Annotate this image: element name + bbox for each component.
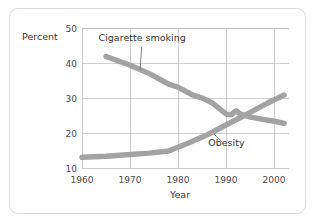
series-line-obesity [82, 95, 284, 157]
x-tick-label-1980: 1980 [167, 175, 190, 185]
y-tick-label-30: 30 [66, 94, 78, 104]
series-label-obesity: Obesity [208, 137, 245, 148]
y-tick-label-10: 10 [66, 164, 78, 174]
y-tick-label-40: 40 [66, 59, 78, 69]
x-axis-tick-labels: 1960 1970 1980 1990 2000 [71, 175, 286, 185]
line-chart: 50 40 30 20 10 1960 1970 1980 1990 2000 … [0, 0, 317, 224]
series-line-cigarette-smoking [106, 57, 284, 124]
annotation-leaders [140, 47, 222, 143]
series-group [82, 57, 284, 158]
x-axis-title: Year [169, 189, 190, 200]
x-tick-label-1960: 1960 [71, 175, 94, 185]
series-label-cigarette-smoking: Cigarette smoking [99, 32, 186, 43]
x-tick-label-1970: 1970 [119, 175, 142, 185]
leader-line-cigarette-smoking [140, 47, 142, 70]
y-axis-title: Percent [22, 31, 58, 42]
y-tick-label-50: 50 [66, 24, 78, 34]
horizontal-gridlines [82, 29, 289, 169]
x-tick-label-2000: 2000 [263, 175, 286, 185]
x-tick-label-1990: 1990 [215, 175, 238, 185]
y-axis-tick-labels: 50 40 30 20 10 [66, 24, 78, 174]
y-tick-label-20: 20 [66, 129, 78, 139]
